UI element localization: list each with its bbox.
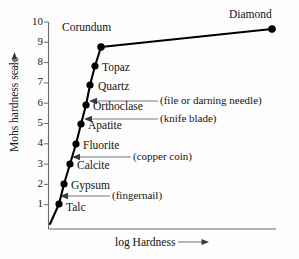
point-gypsum (60, 180, 67, 187)
point-talc (55, 200, 62, 207)
label-apatite: Apatite (88, 119, 122, 132)
x-axis-title: log Hardness (115, 236, 176, 249)
y-tick-9: 9 (38, 35, 44, 47)
y-tick-5: 5 (38, 116, 44, 128)
y-axis-arrow-head (12, 52, 18, 60)
point-diamond (268, 25, 276, 33)
label-fluorite: Fluorite (83, 139, 119, 151)
y-tick-8: 8 (38, 55, 44, 67)
y-tick-4: 4 (38, 136, 44, 148)
point-quartz (86, 81, 93, 88)
label-diamond: Diamond (229, 8, 272, 20)
annotation-coin: (copper coin) (133, 150, 192, 163)
y-tick-6: 6 (38, 96, 44, 108)
point-calcite (66, 160, 73, 167)
annotation-file: (file or darning needle) (160, 94, 262, 107)
mohs-hardness-chart: 10 9 8 7 6 5 4 3 2 1 Mohs hardness scale (0, 0, 299, 259)
point-labels: Corundum Diamond Topaz Quartz Orthoclase… (62, 8, 272, 213)
point-orthoclase (82, 101, 89, 108)
label-quartz: Quartz (98, 80, 129, 92)
label-talc: Talc (66, 201, 86, 213)
y-axis-title-group: Mohs hardness scale (8, 52, 20, 152)
point-fluorite (72, 140, 79, 147)
label-gypsum: Gypsum (71, 179, 110, 192)
point-apatite (77, 120, 84, 127)
chart-svg: 10 9 8 7 6 5 4 3 2 1 Mohs hardness scale (0, 0, 299, 259)
label-topaz: Topaz (102, 61, 130, 74)
annotation-knife: (knife blade) (160, 112, 217, 125)
label-orthoclase: Orthoclase (93, 100, 143, 112)
annotation-nail: (fingernail) (112, 189, 162, 202)
y-axis-tick-labels: 10 9 8 7 6 5 4 3 2 1 (32, 15, 44, 210)
label-calcite: Calcite (77, 159, 110, 171)
point-corundum (97, 43, 105, 51)
y-tick-10: 10 (32, 15, 44, 27)
x-axis-arrow-head (202, 239, 210, 245)
y-tick-3: 3 (38, 157, 44, 169)
x-axis-title-group: log Hardness (115, 236, 209, 249)
y-tick-2: 2 (38, 177, 44, 189)
y-axis-ticks (44, 22, 49, 205)
point-topaz (91, 62, 98, 69)
y-tick-1: 1 (38, 197, 44, 209)
label-corundum: Corundum (62, 21, 111, 33)
y-tick-7: 7 (38, 75, 44, 87)
